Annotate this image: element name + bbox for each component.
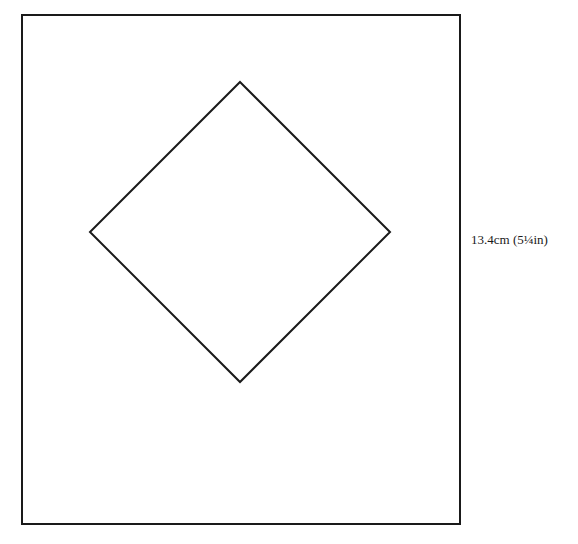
dimension-label: 13.4cm (5¼in): [471, 232, 548, 248]
outer-square: [22, 15, 460, 524]
pattern-diagram: 13.4cm (5¼in): [0, 0, 578, 544]
inner-diamond: [90, 82, 390, 382]
diagram-svg: [0, 0, 578, 544]
